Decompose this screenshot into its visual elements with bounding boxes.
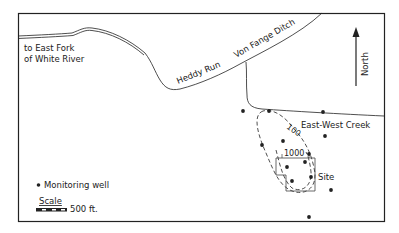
monitoring-well-marker	[307, 152, 311, 156]
heddy-run-label: Heddy Run	[175, 59, 222, 86]
contour-1000-label: 1000	[284, 149, 304, 158]
scale-value: 500 ft.	[70, 204, 98, 214]
site-map: to East Fork of White River Heddy Run Vo…	[0, 0, 399, 233]
monitoring-well-marker	[323, 134, 327, 138]
site-boundary	[276, 158, 315, 191]
monitoring-well-marker	[307, 215, 311, 219]
scale-label: Scale	[39, 196, 62, 206]
legend-well-icon	[37, 183, 41, 187]
monitoring-well-marker	[241, 109, 245, 113]
monitoring-well-marker	[303, 160, 307, 164]
monitoring-well-marker	[309, 175, 313, 179]
monitoring-well-marker	[260, 143, 264, 147]
monitoring-well-marker	[290, 179, 294, 183]
monitoring-well-marker	[281, 139, 285, 143]
monitoring-well-marker	[321, 110, 325, 114]
river-label-line1: to East Fork	[24, 43, 75, 53]
scale-bar-icon	[36, 208, 67, 212]
monitoring-well-marker	[285, 165, 289, 169]
north-arrow-icon	[353, 27, 360, 86]
monitoring-well-marker	[329, 188, 333, 192]
north-label: North	[360, 52, 370, 76]
legend-well-label: Monitoring well	[44, 180, 109, 190]
east-west-creek-label: East-West Creek	[301, 120, 370, 130]
monitoring-well-marker	[267, 109, 271, 113]
river-label-line2: of White River	[24, 54, 85, 64]
site-label: Site	[318, 172, 334, 182]
